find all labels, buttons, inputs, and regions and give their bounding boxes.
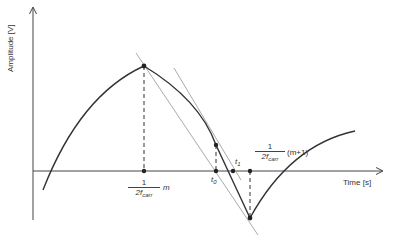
t1-label-sub: 1	[237, 161, 240, 167]
m1-fraction-label: 1 2fcarr	[255, 142, 285, 164]
m-fraction-label: 1 2fcarr	[128, 178, 160, 200]
tangent-line-peak	[136, 53, 258, 235]
t0-label-sub: 0	[213, 179, 216, 185]
m1-tick-point	[248, 169, 252, 173]
m1-fraction-numerator: 1	[268, 142, 272, 151]
minimum-point	[248, 216, 253, 221]
y-axis-label: Amplitude [V]	[6, 24, 15, 72]
peak-point	[142, 64, 147, 69]
m-tick-point	[142, 169, 146, 173]
m-fraction-suffix: m	[163, 184, 170, 192]
m-fraction-den-sub: carr	[142, 192, 152, 198]
m-fraction-numerator: 1	[142, 178, 146, 187]
m1-fraction-denominator: 2fcarr	[261, 152, 278, 164]
t0-point	[214, 169, 218, 173]
m1-fraction-den-sub: carr	[268, 156, 278, 162]
diagram-canvas	[0, 0, 398, 241]
x-axis-label: Time [s]	[343, 179, 371, 187]
curve-point	[214, 143, 218, 147]
y-axis	[30, 7, 37, 220]
m1-fraction-suffix: (m+1)	[287, 149, 308, 157]
t1-label: t1	[235, 158, 241, 167]
t0-label: t0	[211, 176, 217, 185]
x-axis	[33, 168, 383, 175]
diagram: Amplitude [V] Time [s] 1 2fcarr m 1 2fca…	[0, 0, 398, 241]
t1-point	[231, 169, 235, 173]
m-fraction-denominator: 2fcarr	[135, 188, 152, 200]
